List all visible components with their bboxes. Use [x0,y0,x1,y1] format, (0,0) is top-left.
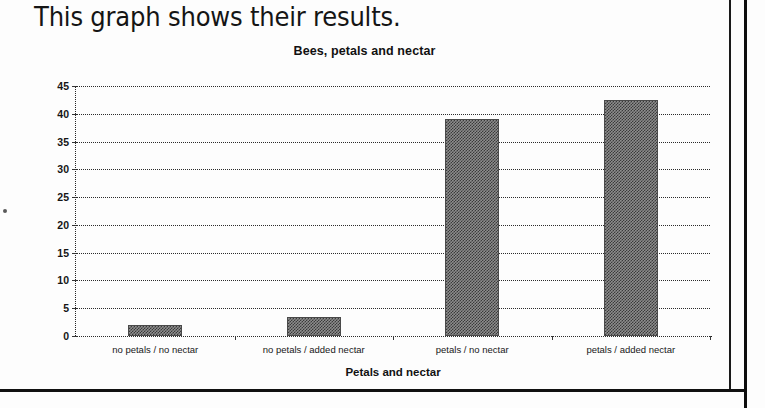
y-tick-label: 0 [63,330,69,342]
page-heading: This graph shows their results. [34,1,400,32]
y-tick-label: 40 [57,108,69,120]
bar [445,119,499,336]
chart-title: Bees, petals and nectar [0,44,729,58]
page-border-bottom [0,389,746,392]
x-tick-mark [393,336,394,340]
x-tick-mark [552,336,553,340]
y-tick-label: 20 [57,219,69,231]
bar [128,325,182,336]
y-tick-label: 25 [57,191,69,203]
x-category-label: petals / added nectar [586,344,675,355]
y-tick-mark [72,114,76,115]
x-category-label: no petals / no nectar [112,344,198,355]
bar [604,100,658,336]
y-tick-mark [72,225,76,226]
y-tick-mark [72,336,76,337]
page-border-right [729,0,731,392]
x-category-label: no petals / added nectar [263,344,365,355]
x-category-label: petals / no nectar [436,344,509,355]
y-tick-label: 15 [57,247,69,259]
y-tick-label: 5 [63,302,69,314]
plot-area: 051015202530354045 no petals / no nectar… [76,86,710,336]
bar-chart: Bees, petals and nectar Number of visits… [0,44,729,384]
y-axis-line [75,86,76,336]
gridline [76,86,710,87]
y-tick-mark [72,280,76,281]
y-tick-mark [72,86,76,87]
x-tick-mark [235,336,236,340]
scanned-page: This graph shows their results. Bees, pe… [0,0,765,408]
bar [287,317,341,336]
y-tick-mark [72,253,76,254]
y-tick-label: 35 [57,136,69,148]
y-tick-label: 30 [57,163,69,175]
scan-edge-line [744,0,747,408]
y-tick-mark [72,169,76,170]
y-tick-label: 10 [57,274,69,286]
x-tick-mark [710,336,711,340]
y-tick-mark [72,308,76,309]
y-tick-label: 45 [57,80,69,92]
x-axis-title: Petals and nectar [76,366,710,378]
scan-speck [3,209,7,213]
y-tick-mark [72,142,76,143]
y-tick-mark [72,197,76,198]
